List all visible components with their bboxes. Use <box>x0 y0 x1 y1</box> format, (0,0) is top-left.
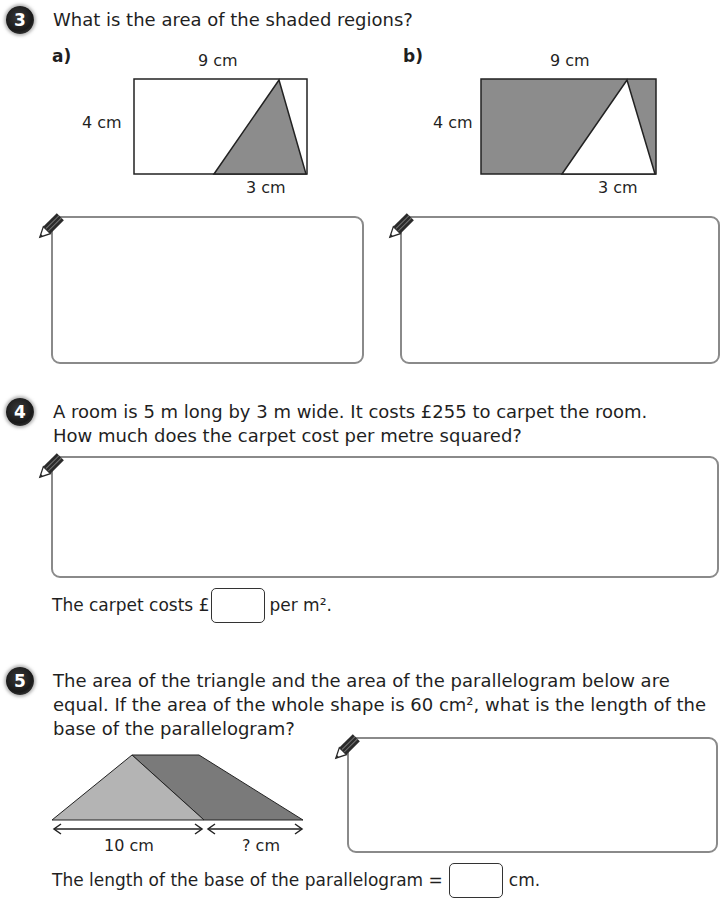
part-a-label: a) <box>52 46 71 66</box>
answer-suffix: per m². <box>269 595 331 615</box>
pencil-icon <box>33 212 65 244</box>
part-a-top-dimension: 9 cm <box>198 51 238 70</box>
working-box-question-4[interactable] <box>51 456 719 578</box>
part-a-bottom-dimension: 3 cm <box>246 178 286 197</box>
question-number-badge: 3 <box>6 6 34 34</box>
answer-prefix: The carpet costs £ <box>52 595 209 615</box>
question-5-answer-line: The length of the base of the parallelog… <box>52 863 540 898</box>
question-4-answer-line: The carpet costs £per m². <box>52 588 332 623</box>
pencil-icon <box>329 733 361 765</box>
triangle-parallelogram-diagram <box>50 754 306 834</box>
question-5-text-line3: base of the parallelogram? <box>53 717 295 740</box>
question-3-text: What is the area of the shaded regions? <box>53 8 413 31</box>
question-5-text-line1: The area of the triangle and the area of… <box>53 669 670 692</box>
parallelogram-base-label: ? cm <box>242 836 280 855</box>
part-b-label: b) <box>403 46 423 66</box>
answer-suffix: cm. <box>509 870 540 890</box>
question-5-text-line2: equal. If the area of the whole shape is… <box>53 693 706 716</box>
part-b-bottom-dimension: 3 cm <box>598 178 638 197</box>
part-b-side-dimension: 4 cm <box>433 113 473 132</box>
answer-prefix: The length of the base of the parallelog… <box>52 870 443 890</box>
question-4-text-line2: How much does the carpet cost per metre … <box>53 424 522 447</box>
triangle-base-label: 10 cm <box>104 836 154 855</box>
question-4-text-line1: A room is 5 m long by 3 m wide. It costs… <box>53 400 647 423</box>
pencil-icon <box>383 212 415 244</box>
question-number-badge: 4 <box>6 398 34 426</box>
question-number-badge: 5 <box>6 667 34 695</box>
working-box-part-b[interactable] <box>400 216 720 364</box>
part-b-shaded-region-diagram <box>480 78 658 176</box>
answer-box-cost-per-m2[interactable] <box>211 588 265 623</box>
part-b-top-dimension: 9 cm <box>550 51 590 70</box>
part-a-side-dimension: 4 cm <box>82 113 122 132</box>
answer-box-parallelogram-base[interactable] <box>449 863 503 898</box>
working-box-part-a[interactable] <box>51 216 364 364</box>
part-a-shaded-triangle-diagram <box>133 78 309 176</box>
working-box-question-5[interactable] <box>347 737 718 853</box>
pencil-icon <box>33 452 65 484</box>
